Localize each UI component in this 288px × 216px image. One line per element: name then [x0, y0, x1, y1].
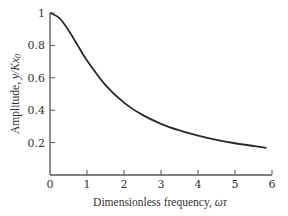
x-axis-label: Dimensionless frequency, ωτ — [93, 196, 228, 209]
x-tick-label: 1 — [84, 178, 91, 191]
y-tick-label: 0.4 — [28, 104, 46, 117]
x-tick-label: 6 — [269, 178, 276, 191]
x-tick-label: 0 — [47, 178, 54, 191]
amplitude-curve — [50, 13, 266, 148]
x-tick-label: 4 — [195, 178, 202, 191]
y-tick-label: 0.8 — [28, 39, 46, 52]
x-tick-label: 2 — [121, 178, 128, 191]
y-tick-label: 0.2 — [28, 137, 46, 150]
x-tick-label: 5 — [232, 178, 239, 191]
ticks: 01234560.20.40.60.81 — [28, 7, 276, 191]
chart: 01234560.20.40.60.81 Dimensionless frequ… — [0, 0, 288, 216]
x-tick-label: 3 — [158, 178, 165, 191]
y-axis-label: Amplitude, y/Kx0 — [9, 54, 23, 134]
axes — [50, 13, 272, 175]
y-tick-label: 1 — [38, 7, 45, 20]
y-tick-label: 0.6 — [28, 72, 46, 85]
